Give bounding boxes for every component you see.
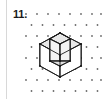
- isometric-cube-figure: [0, 0, 103, 99]
- grid-dot: [25, 57, 27, 59]
- grid-dot: [31, 68, 33, 70]
- grid-dot: [47, 79, 49, 81]
- grid-dot: [36, 57, 38, 59]
- grid-dot: [31, 46, 33, 48]
- cube-vertex-dot: [59, 76, 61, 78]
- grid-dot: [42, 24, 44, 26]
- grid-dot: [42, 68, 44, 70]
- grid-dot: [86, 68, 88, 70]
- grid-dot: [69, 13, 71, 15]
- cube-vertex-dot: [59, 60, 61, 62]
- cube-vertex-dot: [69, 38, 71, 40]
- grid-dot: [31, 90, 33, 92]
- grid-dot: [64, 90, 66, 92]
- grid-dot: [58, 13, 60, 15]
- grid-dot: [100, 13, 102, 15]
- grid-dot: [25, 13, 27, 15]
- cube-vertex-dot: [59, 54, 61, 56]
- grid-dot: [31, 24, 33, 26]
- cube-vertex-dot: [49, 38, 51, 40]
- cube-vertex-dot: [59, 65, 61, 67]
- grid-dot: [91, 79, 93, 81]
- grid-dot: [100, 57, 102, 59]
- grid-dot: [69, 35, 71, 37]
- cube-vertex-dot: [39, 43, 41, 45]
- grid-dot: [100, 79, 102, 81]
- grid-dot: [47, 35, 49, 37]
- figure-panel: 11.: [0, 0, 103, 99]
- grid-dot: [42, 90, 44, 92]
- grid-dot: [75, 90, 77, 92]
- grid-dot: [97, 90, 99, 92]
- cube-vertex-dot: [80, 43, 82, 45]
- grid-dot: [86, 90, 88, 92]
- grid-dot: [91, 13, 93, 15]
- grid-dot: [25, 79, 27, 81]
- grid-dot: [97, 46, 99, 48]
- grid-dot: [58, 79, 60, 81]
- cube-vertex-dot: [80, 65, 82, 67]
- grid-dot: [25, 35, 27, 37]
- grid-dot: [97, 68, 99, 70]
- grid-dot: [36, 13, 38, 15]
- cube-vertex-dot: [39, 65, 41, 67]
- cube-drawing: [39, 32, 82, 78]
- grid-dot: [80, 13, 82, 15]
- grid-dot: [47, 13, 49, 15]
- grid-dot: [36, 35, 38, 37]
- grid-dot: [53, 90, 55, 92]
- grid-dot: [100, 35, 102, 37]
- cube-vertex-dot: [59, 32, 61, 34]
- grid-dot: [86, 46, 88, 48]
- grid-dot: [36, 79, 38, 81]
- grid-dot: [91, 57, 93, 59]
- grid-dot: [97, 24, 99, 26]
- grid-dot: [80, 35, 82, 37]
- grid-dot: [75, 24, 77, 26]
- cube-vertex-dot: [49, 60, 51, 62]
- grid-dot: [80, 79, 82, 81]
- grid-dot: [64, 24, 66, 26]
- grid-dot: [69, 79, 71, 81]
- cube-vertex-dot: [69, 60, 71, 62]
- grid-dot: [86, 24, 88, 26]
- grid-dot: [91, 35, 93, 37]
- cube-vertex-dot: [59, 43, 61, 45]
- grid-dot: [53, 24, 55, 26]
